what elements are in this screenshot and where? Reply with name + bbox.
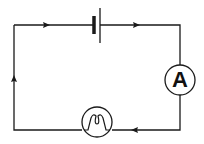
ammeter-label: A (168, 67, 192, 93)
lamp-icon (82, 107, 112, 137)
battery-icon (94, 8, 100, 43)
arrow-up-icon (11, 75, 17, 82)
wire-bottom-left (14, 25, 82, 130)
wire-top-right (100, 25, 180, 65)
arrow-right-icon (43, 22, 50, 28)
arrow-right-icon (133, 22, 140, 28)
circuit-diagram: A (0, 0, 204, 144)
wire-right-lower (112, 95, 180, 130)
arrow-left-icon (131, 127, 138, 133)
